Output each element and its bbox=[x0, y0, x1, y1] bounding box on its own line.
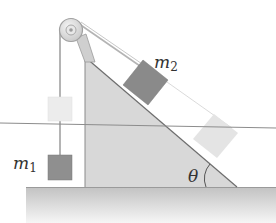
angle-theta-label: θ bbox=[188, 168, 198, 185]
m1-ghost-block bbox=[48, 97, 72, 121]
m1-label: m1 bbox=[13, 155, 37, 174]
m1-block bbox=[48, 155, 72, 180]
atwood-incline-diagram bbox=[0, 0, 276, 223]
m2-label: m2 bbox=[154, 54, 178, 73]
ground bbox=[26, 187, 276, 223]
pulley-icon bbox=[60, 19, 83, 42]
